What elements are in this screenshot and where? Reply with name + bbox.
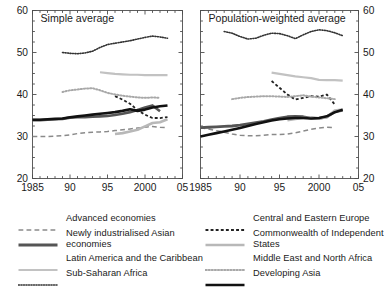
legend-item[interactable]: Advanced economies — [18, 213, 208, 226]
legend-label: Commonwealth of Independent States — [253, 228, 391, 251]
x-tick-label: 05 — [353, 182, 365, 193]
x-tick-label: 1985 — [189, 182, 212, 193]
legend-swatch-icon — [205, 219, 245, 225]
legend-item[interactable]: Central and Eastern Europe — [205, 213, 391, 226]
legend-label: Advanced economies — [66, 213, 208, 224]
series-line — [115, 119, 168, 134]
plot-frame — [33, 11, 183, 179]
x-tick-label: 90 — [234, 182, 246, 193]
legend-label: Latin America and the Caribbean — [66, 253, 208, 264]
y-tick-label: 20 — [363, 173, 375, 184]
x-tick-label: 1985 — [21, 182, 44, 193]
y-tick-label: 50 — [17, 47, 29, 58]
legend-label: Middle East and North Africa — [253, 253, 391, 264]
legend-label: Central and Eastern Europe — [253, 213, 391, 224]
series-line — [63, 88, 161, 98]
legend-item[interactable]: Commonwealth of Independent States — [205, 228, 391, 251]
plot-frame — [201, 11, 359, 179]
legend-swatch-icon — [18, 259, 58, 265]
legend-column-right: Central and Eastern EuropeCommonwealth o… — [205, 213, 391, 283]
legend-swatch-icon — [18, 219, 58, 225]
series-line — [224, 30, 343, 39]
series-line — [272, 81, 335, 105]
y-tick-label: 60 — [17, 5, 29, 16]
legend-column-left: Advanced economiesNewly industrialised A… — [18, 213, 208, 283]
x-tick-label: 2000 — [134, 182, 157, 193]
y-axis-ticks — [201, 11, 359, 179]
x-axis-ticks — [201, 11, 359, 179]
x-tick-label: 95 — [274, 182, 286, 193]
legend-swatch-icon — [205, 234, 245, 240]
legend-swatch-icon — [205, 274, 245, 280]
x-axis-ticks — [33, 11, 183, 179]
series-line — [63, 36, 168, 54]
legend-label: Newly industrialised Asian economies — [66, 228, 208, 251]
y-tick-label: 60 — [363, 5, 375, 16]
legend-label: Sub-Saharan Africa — [66, 268, 208, 279]
x-tick-label: 90 — [64, 182, 76, 193]
legend-swatch-icon — [18, 234, 58, 240]
x-tick-label: 2000 — [308, 182, 331, 193]
x-tick-label: 95 — [102, 182, 114, 193]
x-tick-label: 05 — [177, 182, 189, 193]
y-tick-label: 30 — [17, 131, 29, 142]
panel-simple-average: 203040506019859095200005Simple average — [17, 5, 189, 193]
series-line — [33, 126, 168, 136]
panel-title: Population-weighted average — [209, 12, 346, 24]
y-tick-label: 40 — [363, 89, 375, 100]
series-line — [232, 95, 335, 99]
y-tick-label: 40 — [17, 89, 29, 100]
y-tick-label: 30 — [363, 131, 375, 142]
legend-swatch-icon — [205, 259, 245, 265]
y-tick-label: 50 — [363, 47, 375, 58]
legend-label: Developing Asia — [253, 268, 391, 279]
panel-population-weighted-average: 203040506019859095200005Population-weigh… — [189, 5, 375, 193]
legend-item[interactable]: Middle East and North Africa — [205, 253, 391, 266]
legend-swatch-icon — [18, 274, 58, 280]
series-line — [201, 110, 343, 137]
chart-legend: Advanced economiesNewly industrialised A… — [0, 213, 391, 300]
legend-item[interactable]: Developing Asia — [205, 268, 391, 281]
legend-item[interactable]: Sub-Saharan Africa — [18, 268, 208, 281]
series-line — [272, 73, 343, 81]
legend-item[interactable]: Latin America and the Caribbean — [18, 253, 208, 266]
y-axis-ticks — [33, 11, 183, 179]
legend-item[interactable]: Newly industrialised Asian economies — [18, 228, 208, 251]
series-line — [100, 72, 168, 75]
panel-title: Simple average — [41, 12, 115, 24]
